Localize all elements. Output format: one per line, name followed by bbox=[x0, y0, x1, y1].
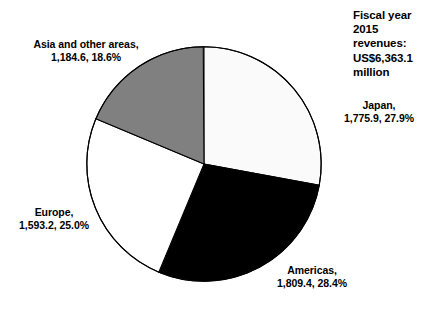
pie-slice-japan[interactable] bbox=[204, 47, 321, 185]
slice-label-japan: Japan, 1,775.9, 27.9% bbox=[322, 99, 436, 124]
pie-svg bbox=[86, 46, 322, 282]
pie-chart-figure: Fiscal year 2015 revenues: US$6,363.1 mi… bbox=[0, 0, 440, 309]
pie-chart-graphic bbox=[86, 46, 322, 282]
slice-label-americas: Americas, 1,809.4, 28.4% bbox=[250, 264, 374, 289]
slice-label-europe: Europe, 1,593.2, 25.0% bbox=[2, 206, 106, 231]
slice-label-asia: Asia and other areas, 1,184.6, 18.6% bbox=[10, 38, 162, 63]
chart-title: Fiscal year 2015 revenues: US$6,363.1 mi… bbox=[353, 8, 439, 79]
pie-slices bbox=[87, 47, 321, 281]
